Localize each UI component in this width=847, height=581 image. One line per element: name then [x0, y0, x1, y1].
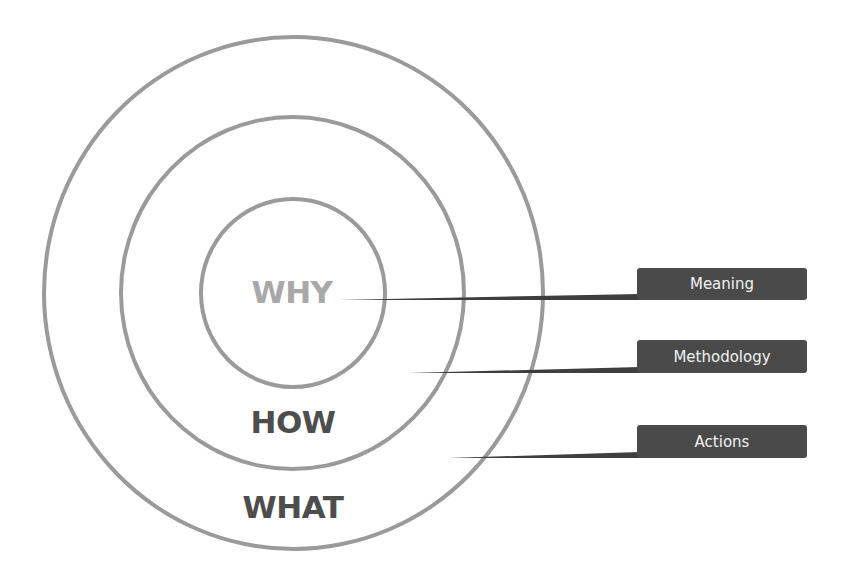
callout-meaning-text: Meaning — [690, 275, 754, 293]
callout-methodology-text: Methodology — [673, 348, 770, 366]
leader-line-methodology — [408, 367, 640, 373]
callout-actions: Actions — [637, 425, 807, 458]
leader-line-meaning — [338, 294, 640, 300]
callout-meaning: Meaning — [637, 268, 807, 300]
callout-actions-text: Actions — [695, 433, 750, 451]
callout-methodology: Methodology — [637, 340, 807, 373]
leader-line-actions — [448, 452, 640, 458]
golden-circle-diagram: WHY HOW WHAT Meaning Methodology Actions — [0, 0, 847, 581]
